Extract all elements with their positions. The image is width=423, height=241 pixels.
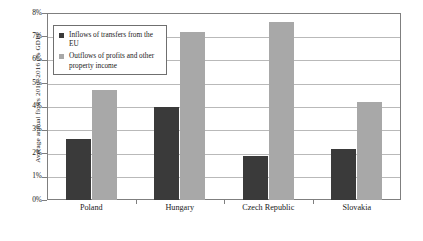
x-axis-category-label: Hungary xyxy=(136,203,225,213)
x-axis-category-label: Poland xyxy=(47,203,136,213)
bar-outflows xyxy=(269,22,294,200)
y-axis-tick-label: 3% xyxy=(12,125,42,133)
bar-inflows xyxy=(243,156,268,200)
bar-inflows xyxy=(331,149,356,200)
bar-chart: Average annual flows 2010–2016 (% GDP) 8… xyxy=(0,0,423,241)
bar-inflows xyxy=(66,139,91,200)
y-axis-tick-label: 4% xyxy=(12,102,42,110)
legend-label-inflows: Inflows of transfers from the EU xyxy=(69,30,159,48)
y-axis-tick-label: 7% xyxy=(12,32,42,40)
x-axis-separator xyxy=(224,200,225,204)
legend-swatch-icon-inflows xyxy=(59,33,64,38)
bar-inflows xyxy=(154,107,179,201)
legend-swatch-icon-outflows xyxy=(59,54,64,59)
x-axis-separator xyxy=(313,200,314,204)
y-axis-tick-label: 2% xyxy=(12,149,42,157)
bar-outflows xyxy=(92,90,117,200)
bar-outflows xyxy=(180,32,205,200)
y-axis-tick-label: 1% xyxy=(12,172,42,180)
x-axis-separator xyxy=(136,200,137,204)
legend-label-outflows: Outflows of profits and other property i… xyxy=(69,51,159,69)
y-axis-tick-label: 6% xyxy=(12,55,42,63)
y-axis-tick-mark xyxy=(42,200,47,201)
legend-item-inflows: Inflows of transfers from the EU xyxy=(59,30,159,48)
y-axis-tick-label: 8% xyxy=(12,9,42,17)
bar-outflows xyxy=(357,102,382,200)
x-axis-category-label: Czech Republic xyxy=(224,203,313,213)
legend: Inflows of transfers from the EU Outflow… xyxy=(53,25,167,75)
x-axis-category-label: Slovakia xyxy=(313,203,402,213)
y-axis-tick-label: 5% xyxy=(12,79,42,87)
legend-item-outflows: Outflows of profits and other property i… xyxy=(59,51,159,69)
y-axis-tick-label: 0% xyxy=(12,196,42,204)
